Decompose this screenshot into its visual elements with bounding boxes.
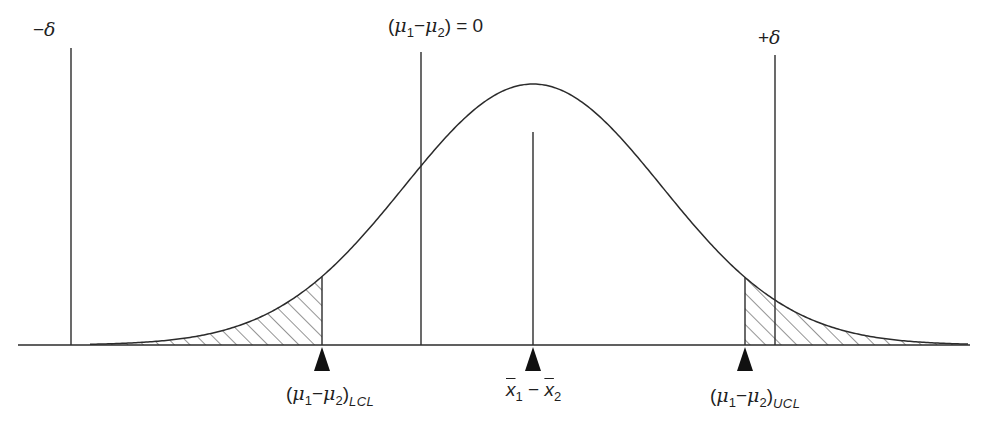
mu-symbol: μ (292, 382, 304, 404)
mu-symbol: μ (716, 384, 728, 406)
mu-symbol: μ (323, 382, 335, 404)
sample-difference-label: x1 − x2 (506, 380, 561, 399)
minus-delta-label: −δ (33, 20, 56, 39)
mu-symbol: μ (747, 384, 759, 406)
mu-symbol: μ (394, 14, 406, 36)
ucl-marker-triangle-icon (737, 347, 753, 371)
plus-sign: + (758, 27, 769, 48)
x-bar-2: x (544, 379, 554, 400)
minus-sign: − (523, 379, 545, 400)
subscript-2: 2 (437, 25, 444, 40)
lcl-marker-triangle-icon (314, 347, 330, 371)
subscript-2: 2 (759, 395, 766, 410)
lower-tail-hatched-region (100, 277, 322, 346)
minus-sign: − (33, 19, 44, 40)
equals-zero: = 0 (451, 15, 483, 36)
confidence-markers (314, 347, 753, 371)
close-paren: ) (343, 383, 349, 404)
delta-symbol: δ (769, 26, 780, 48)
subscript-2: 2 (335, 393, 342, 408)
minus-sign: − (414, 15, 425, 36)
ucl-subscript: UCL (773, 396, 801, 411)
normal-curve-diagram (0, 0, 989, 436)
lcl-subscript: LCL (349, 394, 374, 409)
subscript-1: 1 (516, 389, 523, 404)
lcl-label: (μ1−μ2)LCL (286, 384, 374, 403)
subscript-2: 2 (554, 389, 561, 404)
minus-sign: − (736, 385, 747, 406)
minus-sign: − (312, 383, 323, 404)
subscript-1: 1 (407, 25, 414, 40)
delta-symbol: δ (44, 18, 55, 40)
normal-curve (90, 84, 968, 344)
subscript-1: 1 (305, 393, 312, 408)
mu-symbol: μ (425, 14, 437, 36)
center-marker-triangle-icon (525, 347, 541, 371)
subscript-1: 1 (729, 395, 736, 410)
close-paren: ) (767, 385, 773, 406)
upper-tail-hatched-region (745, 277, 962, 345)
plus-delta-label: +δ (758, 28, 781, 47)
null-hypothesis-label: (μ1−μ2) = 0 (388, 16, 483, 35)
x-bar-1: x (506, 379, 516, 400)
ucl-label: (μ1−μ2)UCL (710, 386, 800, 405)
